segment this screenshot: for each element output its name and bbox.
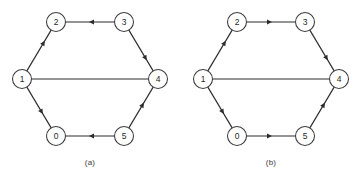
edge-line xyxy=(208,87,232,128)
graph-node-0: 0 xyxy=(228,127,247,146)
graph-edge-1-0 xyxy=(208,87,232,128)
graph-node-4: 4 xyxy=(149,70,168,89)
graph-node-1: 1 xyxy=(13,70,32,89)
arrowhead-icon xyxy=(89,20,94,25)
arrowhead-icon xyxy=(89,134,94,139)
node-label: 1 xyxy=(201,74,206,84)
node-label: 5 xyxy=(303,131,308,141)
graph-edge-3-2 xyxy=(66,20,115,25)
graph-node-5: 5 xyxy=(296,127,315,146)
node-label: 0 xyxy=(54,131,59,141)
edge-line xyxy=(129,30,153,71)
graph-node-0: 0 xyxy=(47,127,66,146)
graph-edge-3-4 xyxy=(129,30,153,71)
node-label: 2 xyxy=(54,17,59,27)
graph-panel-b: 123450 (b) xyxy=(181,0,361,180)
graph-edge-5-4 xyxy=(129,87,153,128)
graph-edge-3-4 xyxy=(310,30,334,71)
graph-edge-2-3 xyxy=(247,20,296,25)
edge-line xyxy=(310,30,334,71)
node-label: 2 xyxy=(235,17,240,27)
node-label: 3 xyxy=(303,17,308,27)
graph-edge-5-0 xyxy=(66,134,115,139)
graph-node-5: 5 xyxy=(115,127,134,146)
node-label: 0 xyxy=(235,131,240,141)
arrowhead-icon xyxy=(267,20,272,25)
graph-panel-a: 123450 (a) xyxy=(0,0,180,180)
edge-line xyxy=(27,87,51,128)
edge-line xyxy=(129,87,153,128)
edge-line xyxy=(208,30,232,71)
edge-line xyxy=(27,30,51,71)
graph-node-4: 4 xyxy=(330,70,349,89)
node-label: 4 xyxy=(156,74,161,84)
graph-node-3: 3 xyxy=(115,13,134,32)
panel-caption-b: (b) xyxy=(181,158,361,167)
graph-edge-1-0 xyxy=(27,87,51,128)
graph-diagram-b: 123450 xyxy=(181,0,361,158)
graph-edge-5-4 xyxy=(310,87,334,128)
graph-edge-1-2 xyxy=(208,30,232,71)
graph-node-1: 1 xyxy=(194,70,213,89)
arrowhead-icon xyxy=(267,134,272,139)
panel-caption-a: (a) xyxy=(0,158,180,167)
node-label: 4 xyxy=(337,74,342,84)
graph-edge-0-5 xyxy=(247,134,296,139)
node-label: 1 xyxy=(20,74,25,84)
graph-node-2: 2 xyxy=(228,13,247,32)
graph-diagram-a: 123450 xyxy=(0,0,180,158)
edge-line xyxy=(310,87,334,128)
graph-node-3: 3 xyxy=(296,13,315,32)
graph-edge-1-2 xyxy=(27,30,51,71)
figure-root: 123450 (a) 123450 (b) xyxy=(0,0,361,180)
node-label: 5 xyxy=(122,131,127,141)
graph-node-2: 2 xyxy=(47,13,66,32)
node-label: 3 xyxy=(122,17,127,27)
